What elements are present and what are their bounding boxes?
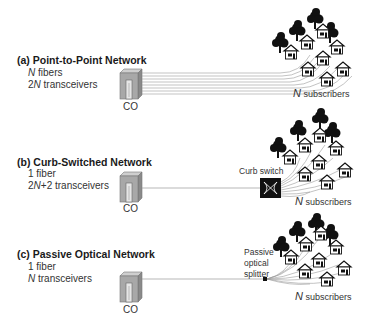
house-icon — [316, 51, 330, 65]
house-icon — [298, 138, 312, 152]
house-icon — [329, 240, 343, 254]
co-building-icon — [120, 69, 142, 99]
house-icon — [338, 163, 352, 177]
curb-switch-label: Curb switch — [239, 166, 283, 177]
n-variable: N — [34, 79, 41, 90]
fibers-text: 1 fiber — [28, 168, 56, 179]
panel-a-title: (a) Point-to-Point Network — [17, 54, 147, 66]
house-icon — [312, 155, 326, 169]
co-building-icon — [120, 172, 142, 202]
panel-b-transceivers: 2N+2 transceivers — [28, 180, 109, 191]
tree-icon — [324, 122, 341, 143]
house-icon — [337, 261, 351, 275]
house-icon — [283, 150, 297, 164]
house-icon — [320, 272, 334, 286]
house-icon — [284, 45, 298, 59]
transceivers-text: transceivers — [41, 79, 98, 90]
subscribers-label: N subscribers — [293, 87, 349, 99]
splitter-label: Passive optical splitter — [244, 247, 274, 280]
panel-b-graphic — [120, 108, 352, 202]
house-icon — [299, 237, 313, 251]
house-icon — [300, 35, 314, 49]
splitter-label-line: splitter — [244, 269, 274, 280]
house-icon — [313, 128, 327, 142]
subscribers-text: subscribers — [303, 292, 352, 302]
subscribers-label: N subscribers — [295, 195, 351, 207]
n-variable: N — [295, 290, 303, 302]
n-variable: N — [295, 195, 303, 207]
splitter-label-line: optical — [244, 258, 274, 269]
n-variable: N — [34, 180, 41, 191]
splitter-label-line: Passive — [244, 247, 274, 258]
panel-a-transceivers: 2N transceivers — [28, 79, 97, 90]
panel-b-fibers: 1 fiber — [28, 168, 56, 179]
n-variable: N — [293, 87, 301, 99]
subscribers-text: subscribers — [301, 89, 350, 99]
panel-b-title: (b) Curb-Switched Network — [17, 156, 152, 168]
panel-c-transceivers: N transceivers — [28, 273, 92, 284]
panel-a-graphic — [120, 8, 352, 99]
house-icon — [336, 62, 350, 76]
subscribers-label: N subscribers — [295, 290, 351, 302]
house-icon — [298, 264, 312, 278]
panel-a-fibers: N fibers — [28, 67, 62, 78]
fibers-text: 1 fiber — [28, 261, 56, 272]
tree-icon — [290, 120, 307, 141]
panel-c-fibers: 1 fiber — [28, 261, 56, 272]
tree-icon — [312, 108, 329, 129]
house-icon — [284, 250, 298, 264]
co-label: CO — [123, 304, 138, 315]
curb-switch-icon — [260, 178, 281, 198]
house-icon — [320, 175, 334, 189]
transceivers-text: +2 transceivers — [41, 180, 109, 191]
fibers-text: fibers — [35, 67, 62, 78]
panel-c-title: (c) Passive Optical Network — [17, 248, 155, 260]
house-icon — [312, 253, 326, 267]
house-icon — [330, 40, 344, 54]
transceivers-text: transceivers — [35, 273, 92, 284]
co-label: CO — [123, 203, 138, 214]
co-building-icon — [120, 272, 142, 302]
house-icon — [329, 141, 343, 155]
subscribers-text: subscribers — [303, 197, 352, 207]
co-label: CO — [123, 101, 138, 112]
